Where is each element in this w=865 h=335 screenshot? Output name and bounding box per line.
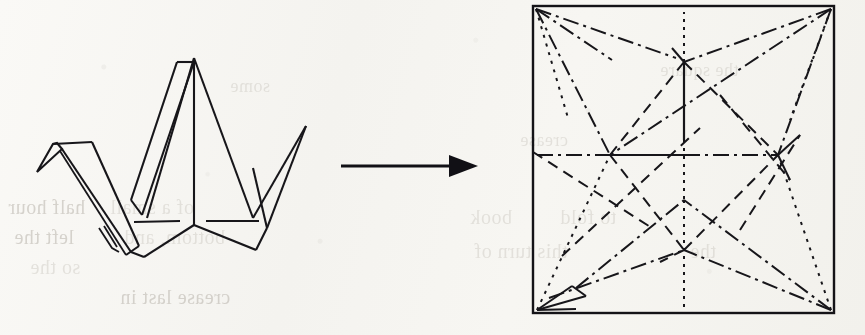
cp-diag-a [610,62,684,155]
cp-tr-fan-a [684,9,831,62]
figure-drawing-layer [0,0,865,335]
crease-pattern-square [533,6,834,313]
crane-wing-right-edge [194,58,253,218]
crane-neck-crease [60,151,126,255]
cp-br-fan-c [684,200,831,310]
cp-br-fan-a [684,250,831,310]
arrow-head [449,155,478,177]
crane-body-right-tip [256,228,267,250]
crane-tail-lower [267,126,306,228]
crane-neck-inner [62,149,131,252]
cp-cross-b [562,128,700,256]
cp-br-fan-b [778,155,831,310]
transformation-arrow [341,155,478,177]
crane-beak [37,143,62,172]
crane-body-right [194,225,256,250]
origami-crane [37,58,306,257]
cp-tl-fan-b [536,9,676,58]
cp-cross-h [672,48,684,62]
cp-cross-d [740,135,800,230]
cp-cross-e [660,250,684,262]
cp-tr-fan-d [778,9,831,155]
crane-head-top [53,142,92,144]
crane-waist-left [134,221,180,222]
crane-body-left-tip [131,252,144,257]
cp-bl-tab-c [537,309,576,310]
cp-bl-tab-a [537,286,572,310]
crane-body-left [144,225,194,257]
cp-tr-fan-b [610,9,831,155]
figure-page: half hourof a smallleft thebottom, andso… [0,0,865,335]
cp-bl-tab-b [537,296,586,310]
cp-tl-fan-a [536,9,612,60]
crane-back-wing-tip [131,200,142,215]
cp-bl-fan-b [549,250,684,298]
